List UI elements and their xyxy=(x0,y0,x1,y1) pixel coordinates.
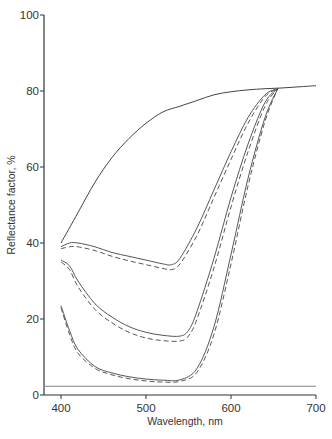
reflectance-chart: 020406080100 400500600700 Wavelength, nm… xyxy=(0,0,332,439)
x-tick-label: 600 xyxy=(221,402,240,414)
y-axis-label: Reflectance factor, % xyxy=(5,155,17,254)
y-tick-label: 0 xyxy=(33,389,39,401)
curve-group xyxy=(45,86,316,387)
x-tick-label: 700 xyxy=(306,402,325,414)
x-axis-label: Wavelength, nm xyxy=(147,415,223,427)
y-tick-label: 100 xyxy=(20,9,39,21)
curve-2-dashed-line xyxy=(61,89,278,342)
x-tick-label: 500 xyxy=(136,402,155,414)
curve-3-dashed-line xyxy=(61,89,278,383)
y-tick-label: 80 xyxy=(26,85,39,97)
x-axis-ticks: 400500600700 xyxy=(51,395,325,414)
y-tick-label: 20 xyxy=(26,313,39,325)
curve-2-solid-line xyxy=(61,89,278,337)
top-solid-line xyxy=(61,86,316,243)
y-tick-label: 60 xyxy=(26,161,39,173)
curve-3-solid-line xyxy=(61,89,278,381)
y-axis-ticks: 020406080100 xyxy=(20,9,44,401)
curve-1-solid-line xyxy=(61,89,278,265)
curve-1-dashed-line xyxy=(61,89,278,270)
x-tick-label: 400 xyxy=(51,402,70,414)
y-tick-label: 40 xyxy=(26,237,39,249)
